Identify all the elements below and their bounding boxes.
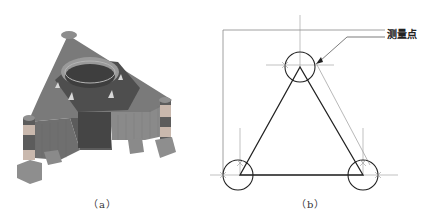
support-block-left: [17, 160, 42, 184]
measurement-point-label: 测量点: [387, 26, 417, 41]
callout-leader-line: [320, 37, 385, 61]
panel-b-schematic: 测量点 （b）: [210, 0, 433, 224]
top-boss: [61, 31, 77, 39]
support-block-right: [155, 137, 176, 158]
measurement-guide-line: [316, 63, 370, 165]
reference-frame-line: [223, 30, 385, 175]
callout-arrowhead-icon: [316, 57, 323, 64]
caption-a: （a）: [88, 196, 117, 211]
triangle: [240, 67, 363, 175]
tick-marks: [220, 62, 381, 178]
support-block-center-right: [128, 138, 144, 154]
center-cylinder: [78, 112, 111, 148]
panel-a-3d-model: （a）: [0, 0, 210, 224]
ring-inner: [65, 64, 115, 88]
caption-b: （b）: [296, 196, 325, 211]
crosshair-lines: [210, 15, 398, 175]
triangular-base-model-illustration: [0, 0, 210, 224]
